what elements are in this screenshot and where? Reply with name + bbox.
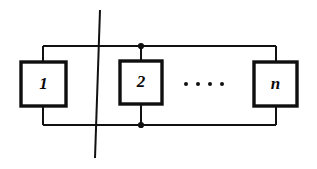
ellipsis-dot-3 <box>208 82 212 86</box>
junction-dot-top <box>138 43 144 49</box>
block-1: 1 <box>21 62 66 106</box>
block-1-label: 1 <box>39 74 48 93</box>
junction-dot-bottom <box>138 122 144 128</box>
ellipsis-dot-2 <box>196 82 200 86</box>
block-n: n <box>254 62 297 106</box>
ellipsis-dot-4 <box>220 82 224 86</box>
blocks-group: 12n <box>21 61 297 106</box>
ellipsis-dot-1 <box>184 82 188 86</box>
block-2-label: 2 <box>136 72 146 91</box>
block-n-label: n <box>271 74 280 93</box>
block-2: 2 <box>120 61 162 104</box>
figure-root: 12n <box>0 0 317 169</box>
block-diagram-canvas: 12n <box>0 0 317 169</box>
